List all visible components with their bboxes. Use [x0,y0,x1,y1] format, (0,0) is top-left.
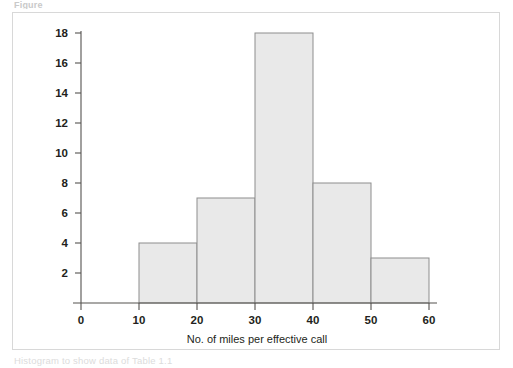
y-tick-label: 4 [62,237,69,249]
x-tick-label: 60 [423,314,436,326]
y-tick-label: 10 [55,147,68,159]
x-tick-label: 40 [307,314,320,326]
y-tick-label: 6 [62,207,68,219]
y-tick-label: 2 [62,267,68,279]
histogram-bar [197,198,255,303]
y-tick-label: 18 [55,27,68,39]
x-tick-label: 0 [78,314,84,326]
x-tick-label: 10 [133,314,146,326]
x-tick-label: 30 [249,314,262,326]
x-tick-label: 20 [191,314,204,326]
histogram-bar [371,258,429,303]
x-axis-title: No. of miles per effective call [187,333,327,345]
cropped-figure-caption-top: Figure [14,0,43,9]
figure-frame: 18 16 14 12 10 8 6 4 2 [12,12,500,350]
y-tick-label: 8 [62,177,69,189]
cropped-figure-caption-bottom: Histogram to show data of Table 1.1 [14,355,172,366]
y-tick-label: 12 [55,117,68,129]
histogram-bar [139,243,197,303]
histogram-bar [313,183,371,303]
histogram-chart: 18 16 14 12 10 8 6 4 2 [13,13,501,351]
y-tick-label: 14 [55,87,68,99]
histogram-bar [255,33,313,303]
x-tick-label: 50 [365,314,378,326]
y-tick-label: 16 [55,57,68,69]
